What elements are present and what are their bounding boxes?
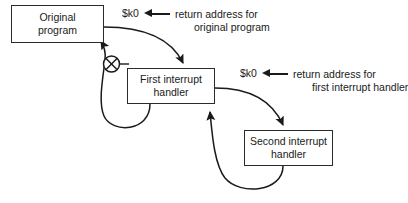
node-original-program-label: Originalprogram bbox=[35, 11, 80, 37]
annotation-first-text-line2: first interrupt handler bbox=[312, 81, 408, 94]
register-label-k0-first: $k0 bbox=[240, 67, 257, 80]
register-label-k0-original: $k0 bbox=[122, 7, 139, 20]
node-first-interrupt-handler: First interrupthandler bbox=[127, 68, 215, 104]
annotation-first-handler-return-address: $k0return address for first interrupt ha… bbox=[240, 67, 408, 94]
node-second-interrupt-handler: Second interrupthandler bbox=[244, 130, 333, 166]
left-arrow-icon bbox=[144, 9, 170, 18]
left-arrow-icon bbox=[262, 69, 288, 78]
node-first-interrupt-handler-label: First interrupthandler bbox=[137, 73, 205, 99]
annotation-original-return-address: $k0return address for original program bbox=[122, 7, 270, 34]
annotation-original-text-line2: original program bbox=[194, 21, 270, 34]
annotation-first-text-line1: return address for bbox=[293, 68, 376, 81]
crossed-circle-icon bbox=[104, 56, 120, 72]
annotation-original-text-line1: return address for bbox=[175, 8, 258, 21]
node-original-program: Originalprogram bbox=[11, 5, 104, 43]
node-second-interrupt-handler-label: Second interrupthandler bbox=[247, 135, 330, 161]
